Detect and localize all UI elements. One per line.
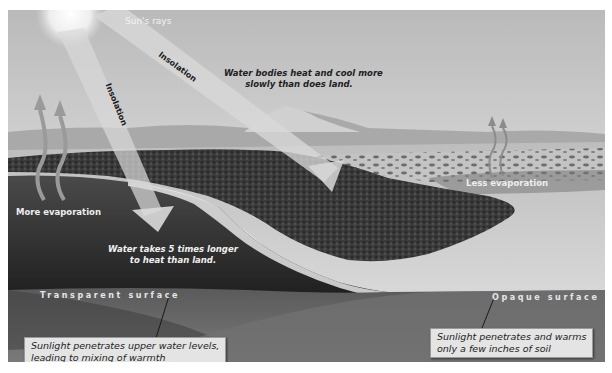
water-callout-line2: leading to mixing of warmth: [31, 352, 219, 362]
land-callout-box: Sunlight penetrates and warms only a few…: [430, 328, 593, 358]
water-takes-annotation: Water takes 5 times longer to heat than …: [108, 244, 238, 266]
land-water-heating-illustration: Sun's rays Insolation Insolation Water b…: [8, 10, 605, 362]
water-callout-box: Sunlight penetrates upper water levels, …: [24, 337, 226, 362]
more-evaporation-label: More evaporation: [16, 207, 101, 217]
suns-rays-label: Sun's rays: [125, 16, 171, 26]
water-bodies-annotation: Water bodies heat and cool more slowly t…: [224, 68, 374, 90]
water-bodies-line2: slowly than does land.: [224, 79, 374, 90]
land-callout-line1: Sunlight penetrates and warms: [437, 331, 586, 343]
water-takes-line2: to heat than land.: [108, 255, 238, 266]
land-callout-line2: only a few inches of soil: [437, 343, 586, 355]
transparent-surface-label: Transparent surface: [40, 291, 180, 300]
opaque-surface-label: Opaque surface: [492, 293, 599, 302]
water-callout-line1: Sunlight penetrates upper water levels,: [31, 340, 219, 352]
water-takes-line1: Water takes 5 times longer: [108, 244, 238, 255]
water-bodies-line1: Water bodies heat and cool more: [224, 68, 374, 79]
less-evaporation-label: Less evaporation: [466, 178, 548, 188]
